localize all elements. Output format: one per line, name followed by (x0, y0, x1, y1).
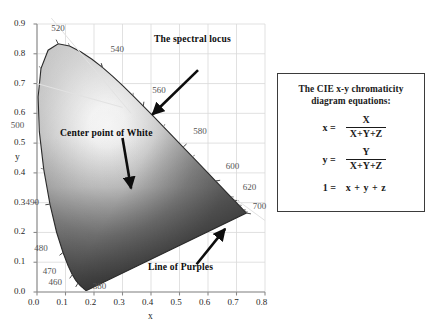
x-tick-label: 0.4 (142, 297, 153, 307)
y-tick-label: 0.0 (14, 286, 25, 296)
chromaticity-gamut-fill (38, 44, 246, 291)
wavelength-label-480: 480 (34, 243, 48, 253)
x-tick-label: 0.1 (57, 297, 68, 307)
equation-y-numerator: Y (358, 147, 373, 159)
x-tick-label: 0.0 (28, 297, 39, 307)
equation-y-lhs: y = (316, 154, 346, 165)
x-tick-label: 0.7 (228, 297, 239, 307)
y-tick-label: 0.8 (14, 48, 25, 58)
wavelength-label-560: 560 (152, 85, 166, 95)
x-tick-label: 0.5 (171, 297, 182, 307)
wavelength-label-620: 620 (243, 182, 257, 192)
x-tick-label: 0.8 (256, 297, 267, 307)
wavelength-label-470: 470 (43, 266, 57, 276)
y-tick-label: 0.2 (14, 226, 25, 236)
y-tick-label: 0.7 (14, 78, 25, 88)
equation-x-lhs: x = (316, 122, 346, 133)
equation-identity-rhs: x + y + z (346, 182, 386, 193)
x-tick-label: 0.6 (199, 297, 210, 307)
x-axis-label: x (148, 311, 153, 321)
wavelength-label-580: 580 (193, 126, 207, 136)
wavelength-label-700: 700 (253, 201, 267, 211)
wavelength-label-490: 490 (26, 197, 40, 207)
y-tick-label: 0.9 (14, 18, 25, 28)
equation-title-line-1: The CIE x-y chromaticity (286, 83, 416, 95)
annotation-center-point-of-white: Center point of White (60, 127, 153, 138)
wavelength-label-600: 600 (226, 161, 240, 171)
y-tick-label: 0.6 (14, 107, 25, 117)
y-tick-label: 0.1 (14, 256, 25, 266)
x-tick-label: 0.2 (85, 297, 96, 307)
wavelength-label-500: 500 (11, 120, 25, 130)
equation-row-identity: 1 = x + y + z (278, 182, 424, 193)
y-axis-label: y (15, 152, 20, 162)
equation-box-title: The CIE x-y chromaticity diagram equatio… (278, 74, 424, 107)
y-tick-label: 0.4 (14, 167, 25, 177)
equation-x-numerator: X (358, 115, 373, 127)
wavelength-label-380: 380 (93, 281, 107, 291)
equation-row-y: y = Y X+Y+Z (278, 147, 424, 171)
y-tick-label: 0.3 (14, 197, 25, 207)
equation-identity-lhs: 1 = (316, 182, 346, 193)
x-tick-label: 0.3 (114, 297, 125, 307)
y-tick-label: 0.5 (14, 137, 25, 147)
equation-row-x: x = X X+Y+Z (278, 115, 424, 139)
equation-title-line-2: diagram equations: (286, 95, 416, 107)
wavelength-label-520: 520 (51, 23, 65, 33)
wavelength-label-460: 460 (48, 277, 62, 287)
wavelength-label-540: 540 (111, 44, 125, 54)
equation-y-fraction: Y X+Y+Z (346, 147, 387, 171)
equation-x-denominator: X+Y+Z (346, 127, 387, 140)
annotation-line-of-purples: Line of Purples (148, 261, 213, 272)
equation-x-fraction: X X+Y+Z (346, 115, 387, 139)
equation-box: The CIE x-y chromaticity diagram equatio… (277, 73, 425, 212)
equation-y-denominator: X+Y+Z (346, 159, 387, 172)
annotation-spectral-locus: The spectral locus (154, 33, 231, 44)
